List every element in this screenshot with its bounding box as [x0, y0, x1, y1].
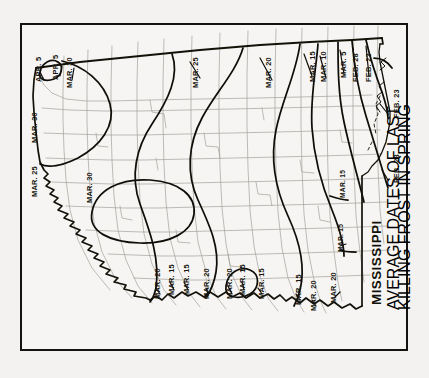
isoline-label-l02: APR. 5 — [52, 55, 59, 80]
isoline-label-l04: MAR. 30 — [31, 112, 38, 143]
isoline-label-l11: MAR. 5 — [340, 51, 347, 78]
isoline-label-l20: MAR. 20 — [226, 268, 233, 299]
isoline-feb-23-coastal — [374, 58, 392, 68]
isoline-label-l03: MAR. 30 — [66, 57, 73, 88]
isoline-label-l08: MAR. 20 — [265, 57, 272, 88]
isoline-label-l01: APR. 5 — [35, 57, 42, 82]
isoline-label-l23: MAR. 15 — [295, 274, 302, 305]
isoline-label-l21: MAR. 15 — [239, 264, 246, 295]
subtitle-line-2-wrap: KILLING FROST IN SPRING — [396, 104, 414, 310]
isoline-label-l18: MAR. 15 — [183, 264, 190, 295]
isoline-label-l13: FEB. 23 — [365, 53, 372, 82]
map-title: MISSISSIPPI — [370, 220, 384, 305]
isoline-label-l27: MAR. 15 — [340, 170, 347, 198]
isoline-label-l26: MAR. 15 — [338, 224, 345, 252]
isoline-label-l25: MAR. 20 — [330, 272, 337, 303]
title-block: MISSISSIPPI — [370, 220, 384, 305]
scanned-page: APR. 5APR. 5MAR. 30MAR. 30MAR. 25MAR. 30… — [0, 0, 429, 378]
isoline-label-l19: MAR. 20 — [203, 268, 210, 299]
map-subtitle-line-2: KILLING FROST IN SPRING — [396, 104, 413, 310]
isoline-label-l17: MAR. 15 — [168, 264, 175, 295]
isoline-label-l24: MAR. 20 — [310, 280, 317, 311]
isoline-mar-15-main — [274, 44, 303, 306]
isoline-label-l06: MAR. 30 — [86, 172, 93, 203]
isoline-label-l16: MAR. 20 — [154, 268, 161, 299]
isoline-label-l05: MAR. 25 — [31, 166, 38, 197]
isoline-label-l09: MAR. 15 — [309, 51, 316, 82]
isoline-label-l12: FEB. 28 — [352, 53, 359, 82]
isoline-label-l22: MAR. 15 — [258, 268, 265, 299]
isoline-label-l10: MAR. 10 — [320, 51, 327, 82]
isoline-label-l07: MAR. 25 — [192, 57, 199, 88]
